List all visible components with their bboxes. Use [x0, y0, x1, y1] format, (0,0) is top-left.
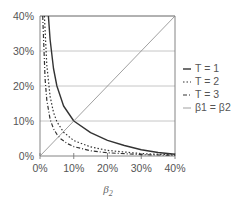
- x-tick-label: 0%: [32, 162, 47, 174]
- legend-label: β1 = β2: [195, 101, 231, 113]
- x-tick-label: 40%: [164, 162, 185, 174]
- x-axis-label: β2: [102, 183, 112, 198]
- legend-item: T = 2: [183, 75, 219, 87]
- x-tick-label: 10%: [63, 162, 84, 174]
- legend-label: T = 2: [195, 75, 219, 87]
- legend-label: T = 3: [195, 88, 219, 100]
- legend-item: T = 3: [183, 88, 219, 100]
- legend-item: T = 1: [183, 62, 219, 74]
- y-tick-label: 40%: [13, 10, 34, 22]
- x-tick-label: 20%: [97, 162, 118, 174]
- y-tick-label: 30%: [13, 45, 34, 57]
- y-tick-label: 10%: [13, 115, 34, 127]
- x-tick-label: 30%: [131, 162, 152, 174]
- legend-label: T = 1: [195, 62, 219, 74]
- x-tick-labels: 0%10%20%30%40%: [32, 162, 185, 174]
- y-tick-label: 0%: [19, 150, 34, 162]
- legend: T = 1T = 2T = 3β1 = β2: [183, 62, 231, 113]
- legend-item: β1 = β2: [183, 101, 231, 113]
- gridlines: [40, 16, 175, 121]
- y-tick-label: 20%: [13, 80, 34, 92]
- series-line: [48, 16, 175, 154]
- chart: 0%10%20%30%40% 0%10%20%30%40% T = 1T = 2…: [0, 0, 238, 201]
- y-tick-labels: 0%10%20%30%40%: [13, 10, 34, 162]
